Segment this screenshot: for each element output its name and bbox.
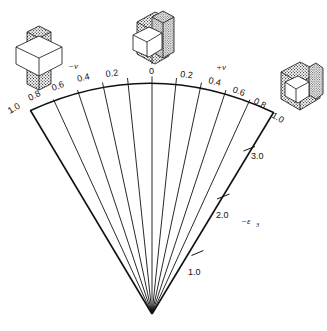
- fan-ray-group: [54, 77, 251, 315]
- radial-tick-1: [192, 251, 204, 256]
- poisson-tick-label: 0.4: [76, 71, 91, 84]
- fan-ray: [103, 83, 153, 315]
- poisson-tick-label-zero: 0: [149, 66, 154, 76]
- axis-label-positive-poisson: +ν: [216, 62, 226, 72]
- fan-ray: [54, 100, 153, 315]
- axis-label-strain: −ε 3: [241, 216, 260, 228]
- poisson-tick-label: 0.2: [105, 68, 119, 79]
- radial-tick-label: 2.0: [216, 210, 229, 220]
- positive-poisson-specimen: [281, 62, 323, 110]
- fan-ray: [152, 100, 250, 315]
- poisson-tick-label: 0.2: [180, 69, 193, 80]
- fan-diagram: [31, 77, 274, 315]
- poisson-tick-label: 0.8: [26, 88, 42, 103]
- radial-tick-label: 3.0: [251, 151, 264, 161]
- fan-ray: [152, 90, 226, 314]
- zero-poisson-specimen: [133, 11, 174, 64]
- poisson-tick-label: 1.0: [6, 101, 22, 116]
- axis-label-strain-symbol: −ε: [241, 216, 251, 226]
- negative-poisson-specimen: [16, 26, 62, 90]
- figure-container: 1.0 0.8 0.6 0.4 0.2 0 0.2 0.4 0.6 0.8 1.…: [0, 0, 327, 331]
- poisson-tick-label: 0.6: [50, 79, 65, 93]
- axis-label-strain-subscript: 3: [255, 221, 260, 228]
- poisson-tick-label: 0.4: [208, 75, 222, 88]
- fan-ray: [152, 83, 202, 315]
- nomograph-svg: 1.0 0.8 0.6 0.4 0.2 0 0.2 0.4 0.6 0.8 1.…: [0, 0, 327, 331]
- axis-label-negative-poisson: −ν: [68, 61, 78, 71]
- radial-tick-group: [192, 147, 256, 256]
- radial-tick-label: 1.0: [188, 267, 201, 277]
